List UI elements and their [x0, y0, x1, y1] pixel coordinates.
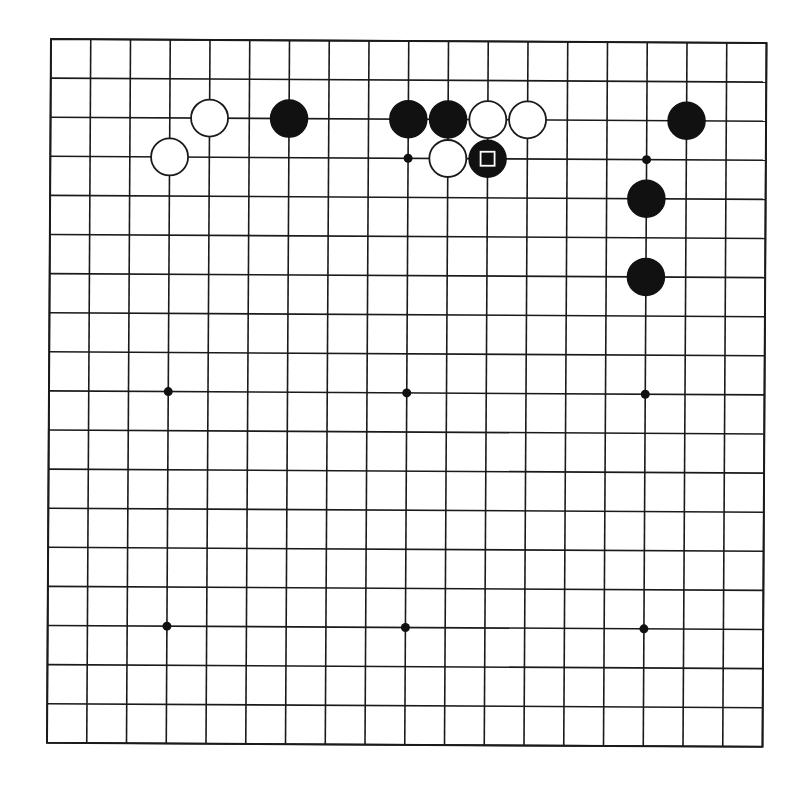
white-stone — [469, 101, 506, 138]
black-stone-icon — [628, 180, 665, 217]
star-point-icon — [164, 387, 173, 396]
black-stone — [430, 101, 467, 138]
black-stone — [627, 258, 664, 295]
white-stone — [509, 101, 546, 138]
star-point-icon — [402, 388, 411, 397]
black-stone-icon — [430, 101, 467, 138]
black-stone — [668, 102, 705, 139]
white-stone-icon — [429, 140, 466, 177]
white-stone-icon — [191, 100, 228, 137]
black-stone — [390, 101, 427, 138]
white-stone — [151, 138, 188, 175]
star-point-icon — [642, 155, 651, 164]
star-point-icon — [162, 622, 171, 631]
star-points — [162, 152, 651, 633]
white-stone — [191, 100, 228, 137]
black-stone — [469, 140, 506, 177]
white-stone — [429, 140, 466, 177]
black-stone-icon — [469, 140, 506, 177]
star-point-icon — [401, 623, 410, 632]
black-stone-icon — [271, 100, 308, 137]
white-stone-icon — [151, 138, 188, 175]
black-stone-icon — [390, 101, 427, 138]
white-stone-icon — [469, 101, 506, 138]
black-stone — [628, 180, 665, 217]
black-stone-icon — [668, 102, 705, 139]
go-board[interactable] — [0, 0, 807, 787]
black-stone-icon — [627, 258, 664, 295]
white-stone-icon — [509, 101, 546, 138]
star-point-icon — [404, 154, 413, 163]
black-stone — [271, 100, 308, 137]
star-point-icon — [639, 624, 648, 633]
star-point-icon — [641, 390, 650, 399]
